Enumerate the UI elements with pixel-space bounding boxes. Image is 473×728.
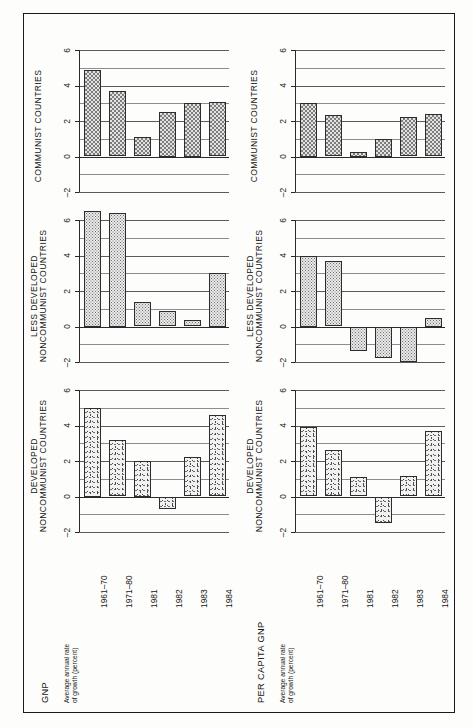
panel-title: DEVELOPED NONCOMMUNIST COUNTRIES: [27, 380, 51, 552]
y-tick-label: 6: [61, 379, 72, 401]
y-tick-label: 4: [277, 415, 288, 437]
bar: [325, 450, 342, 496]
y-tick-label: 4: [61, 245, 72, 267]
grid-line: [79, 532, 229, 533]
bar: [425, 431, 442, 497]
bar: [134, 302, 151, 327]
y-tick-label: 2: [277, 110, 288, 132]
column-title: PER CAPITA GNP: [253, 625, 269, 703]
bar: [350, 327, 367, 352]
bar: [134, 137, 151, 157]
x-tick-label: 1984: [437, 552, 453, 608]
grid-line: [295, 362, 445, 363]
y-tick-mark: [291, 362, 295, 363]
panel-title: DEVELOPED NONCOMMUNIST COUNTRIES: [243, 380, 267, 552]
bar: [209, 273, 226, 326]
bar: [325, 115, 342, 157]
bar: [84, 70, 101, 157]
column-footer: PER CAPITA GNPAverage annual rate of gro…: [249, 625, 449, 707]
bar-series: [79, 390, 229, 532]
plot-area: –20246: [79, 390, 229, 532]
y-tick-label: 0: [61, 146, 72, 168]
y-tick-label: 2: [277, 450, 288, 472]
y-tick-label: 0: [61, 316, 72, 338]
chart-column-per-capita-gnp: COMMUNIST COUNTRIES–20246LESS DEVELOPED …: [239, 13, 455, 713]
y-tick-label: 0: [277, 146, 288, 168]
y-tick-label: 2: [61, 110, 72, 132]
y-tick-label: 0: [277, 486, 288, 508]
plot-area: –20246: [79, 50, 229, 192]
bar: [400, 476, 417, 496]
y-tick-label: 6: [61, 209, 72, 231]
x-tick-label: 1981: [146, 552, 162, 608]
bar: [425, 318, 442, 327]
y-tick-label: –2: [277, 521, 288, 543]
grid-line: [295, 532, 445, 533]
x-tick-label: 1971–80: [121, 552, 137, 608]
bar-series: [79, 220, 229, 362]
plot-area: –20246: [295, 50, 445, 192]
x-tick-label: 1984: [221, 552, 237, 608]
bar: [84, 211, 101, 326]
y-tick-label: 0: [277, 316, 288, 338]
column-subtitle: Average annual rate of growth (percent): [63, 625, 85, 703]
y-tick-label: 2: [61, 280, 72, 302]
bar: [159, 497, 176, 509]
plot-area: –20246: [295, 390, 445, 532]
y-tick-label: –2: [277, 181, 288, 203]
bar-series: [295, 220, 445, 362]
y-tick-label: 4: [277, 75, 288, 97]
bar: [375, 497, 392, 524]
y-tick-label: 6: [277, 209, 288, 231]
x-axis-labels: 1961–701971–801981198219831984: [295, 552, 445, 610]
panel-title: COMMUNIST COUNTRIES: [27, 40, 51, 212]
y-tick-label: 6: [61, 39, 72, 61]
bar: [350, 477, 367, 497]
bar: [300, 427, 317, 496]
y-tick-label: –2: [61, 521, 72, 543]
bar: [109, 440, 126, 497]
chart-column-gnp: COMMUNIST COUNTRIES–20246LESS DEVELOPED …: [23, 13, 239, 713]
y-tick-label: 6: [277, 379, 288, 401]
grid-line: [79, 362, 229, 363]
chart-panel: COMMUNIST COUNTRIES–20246: [239, 40, 455, 212]
y-tick-label: 2: [277, 280, 288, 302]
bar: [425, 114, 442, 157]
bar: [375, 327, 392, 358]
x-tick-label: 1961–70: [96, 552, 112, 608]
x-axis-labels: 1961–701971–801981198219831984: [79, 552, 229, 610]
y-tick-mark: [291, 532, 295, 533]
panel-title: COMMUNIST COUNTRIES: [243, 40, 267, 212]
bar: [209, 415, 226, 497]
bar: [300, 256, 317, 327]
y-tick-label: 6: [277, 39, 288, 61]
y-tick-label: 4: [277, 245, 288, 267]
x-tick-label: 1983: [412, 552, 428, 608]
panel-title: LESS DEVELOPED NONCOMMUNIST COUNTRIES: [27, 210, 51, 382]
chart-panel: LESS DEVELOPED NONCOMMUNIST COUNTRIES–20…: [23, 210, 239, 382]
bar: [184, 320, 201, 326]
bar: [109, 91, 126, 157]
bar: [400, 117, 417, 156]
x-tick-label: 1982: [171, 552, 187, 608]
x-tick-label: 1961–70: [312, 552, 328, 608]
bar: [184, 103, 201, 156]
bar: [184, 457, 201, 496]
grid-line: [79, 192, 229, 193]
x-tick-label: 1982: [387, 552, 403, 608]
bar-series: [295, 50, 445, 192]
bar: [400, 327, 417, 363]
figure-page: COMMUNIST COUNTRIES–20246LESS DEVELOPED …: [0, 0, 473, 728]
x-tick-label: 1983: [196, 552, 212, 608]
bar: [209, 102, 226, 156]
bar: [375, 139, 392, 157]
x-tick-label: 1981: [362, 552, 378, 608]
y-tick-label: 2: [61, 450, 72, 472]
y-tick-label: –2: [61, 181, 72, 203]
chart-panel: DEVELOPED NONCOMMUNIST COUNTRIES–20246: [23, 380, 239, 552]
plot-area: –20246: [79, 220, 229, 362]
bar: [109, 213, 126, 327]
chart-panel: DEVELOPED NONCOMMUNIST COUNTRIES–20246: [239, 380, 455, 552]
column-title: GNP: [37, 625, 53, 703]
column-footer: GNPAverage annual rate of growth (percen…: [33, 625, 233, 707]
